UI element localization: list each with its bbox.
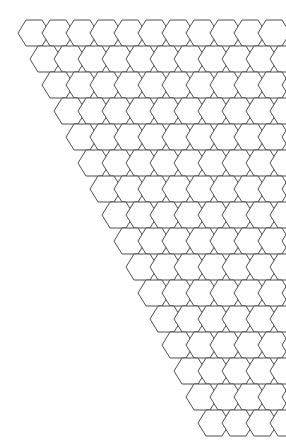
hex-grid-canvas	[0, 0, 286, 443]
hex-grid-figure	[0, 0, 286, 443]
